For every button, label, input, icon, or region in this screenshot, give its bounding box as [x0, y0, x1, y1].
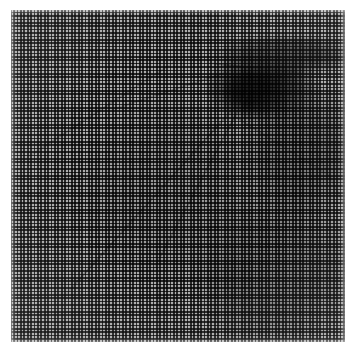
ridge-secondary-diagonal-ridge	[149, 86, 252, 277]
ridge-right-descending-ridge	[225, 110, 336, 181]
ridge-vertical-ridge-lower-center	[155, 239, 160, 339]
ridge-layer	[11, 10, 345, 342]
ridge-upper-left-diagonal-ridge	[21, 57, 181, 162]
halftone-print-area	[11, 10, 345, 342]
ridge-patch-edge-ridge	[208, 62, 303, 74]
screenshot-canvas: Scanned grayscale halftone print: a fine…	[0, 0, 356, 355]
ridge-right-edge-ridge	[299, 121, 345, 219]
ridge-main-diagonal-ridge	[59, 100, 241, 302]
ridge-upper-arc-ridge	[108, 67, 242, 112]
